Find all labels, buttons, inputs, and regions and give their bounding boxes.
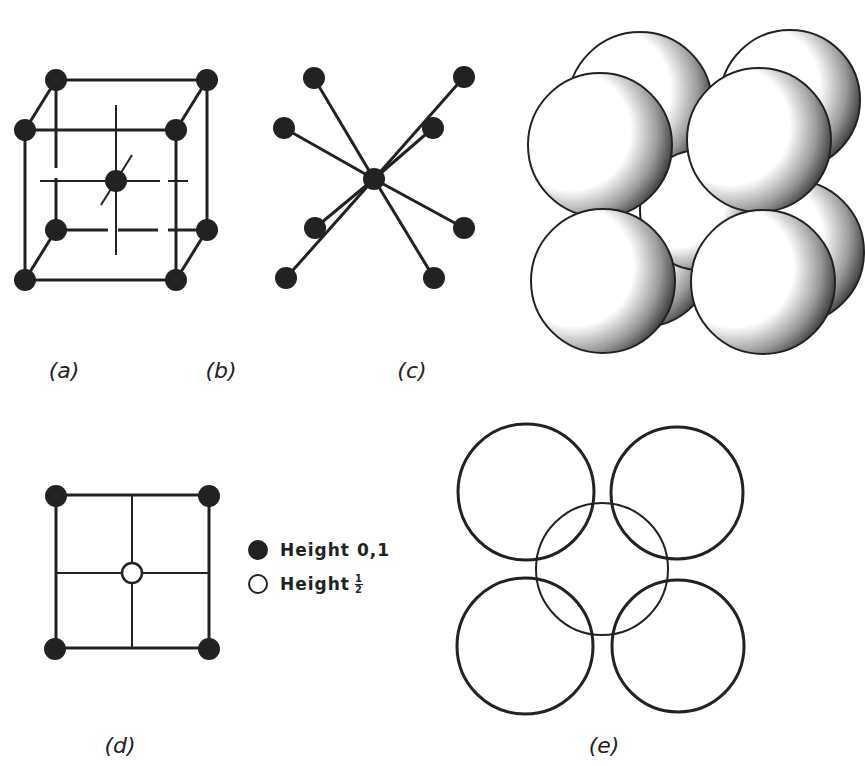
legend-item-height-half: Height 1 2 bbox=[248, 567, 390, 601]
filled-circle-icon bbox=[248, 540, 268, 560]
legend-item-height-0-1: Height 0,1 bbox=[248, 533, 390, 567]
legend: Height 0,1 Height 1 2 bbox=[248, 533, 390, 601]
legend-text: Height bbox=[280, 574, 350, 594]
fraction: 1 2 bbox=[355, 574, 363, 595]
hollow-circle-icon bbox=[248, 574, 268, 594]
panel-c-sphere-model bbox=[528, 30, 864, 354]
panel-label-e: (e) bbox=[589, 733, 620, 758]
panel-label-c: (c) bbox=[397, 358, 426, 383]
panel-label-d: (d) bbox=[104, 733, 135, 758]
panel-a-bcc-cell bbox=[14, 69, 218, 291]
panel-label-b: (b) bbox=[205, 358, 236, 383]
panel-b-coordination bbox=[273, 66, 475, 289]
panel-e-packing-plan bbox=[457, 424, 744, 714]
panel-label-a: (a) bbox=[49, 358, 80, 383]
legend-text: Height 0,1 bbox=[280, 540, 390, 560]
figure-canvas bbox=[0, 0, 865, 766]
panel-d-plan-view bbox=[44, 485, 220, 660]
